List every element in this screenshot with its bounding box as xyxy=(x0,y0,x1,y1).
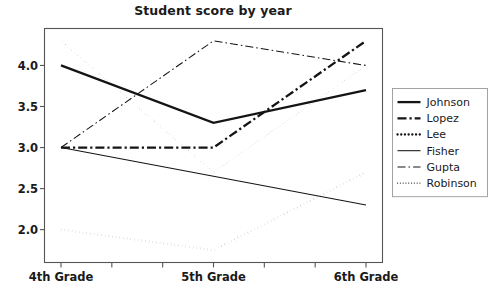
data-series-fisher xyxy=(61,148,366,205)
x-axis-tick-label: 4th Grade xyxy=(29,270,94,284)
legend-label: Fisher xyxy=(427,145,460,158)
legend-label: Robinson xyxy=(427,177,477,190)
legend-label: Gupta xyxy=(427,161,461,174)
chart-container: Student score by year 2.02.53.03.54.0 4t… xyxy=(0,0,491,292)
x-axis-ticks xyxy=(61,263,366,268)
chart-legend: JohnsonLopezLeeFisherGuptaRobinson xyxy=(393,89,488,197)
data-series-lee xyxy=(61,172,366,250)
data-series-gupta xyxy=(61,41,366,148)
data-series-group xyxy=(61,41,366,250)
data-series-robinson xyxy=(61,41,366,172)
y-axis-tick-label: 4.0 xyxy=(18,59,38,73)
legend-label: Johnson xyxy=(426,96,470,109)
y-axis-ticks xyxy=(40,65,45,229)
x-axis-tick-label: 5th Grade xyxy=(181,270,246,284)
y-axis-tick-label: 2.0 xyxy=(18,223,38,237)
y-axis-tick-label: 3.5 xyxy=(18,100,38,114)
x-axis-tick-label: 6th Grade xyxy=(334,270,399,284)
data-series-lopez xyxy=(61,41,366,148)
y-axis-tick-labels: 2.02.53.03.54.0 xyxy=(18,59,38,237)
chart-plot-area: 2.02.53.03.54.0 4th Grade5th Grade6th Gr… xyxy=(0,0,491,292)
y-axis-tick-label: 3.0 xyxy=(18,141,38,155)
legend-label: Lee xyxy=(427,128,447,141)
y-axis-tick-label: 2.5 xyxy=(18,182,38,196)
legend-label: Lopez xyxy=(427,112,459,125)
x-axis-tick-labels: 4th Grade5th Grade6th Grade xyxy=(29,270,399,284)
